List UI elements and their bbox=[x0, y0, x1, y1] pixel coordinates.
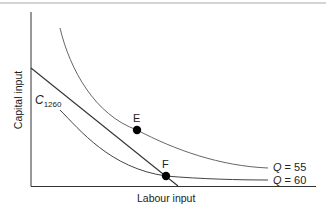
point-e-label: E bbox=[133, 112, 140, 124]
isocost-line bbox=[31, 68, 178, 186]
point-f-label: F bbox=[162, 158, 169, 170]
y-axis-label: Capital input bbox=[12, 71, 24, 129]
q60-label: Q = 60 bbox=[273, 174, 306, 186]
point-f bbox=[162, 172, 170, 180]
isocost-label: C1260 bbox=[35, 93, 62, 109]
point-e bbox=[133, 126, 141, 134]
isoquant-chart: E F C1260 Q = 55 Q = 60 Labour input Cap… bbox=[0, 0, 329, 215]
isoquant-q55 bbox=[60, 28, 268, 168]
q55-label: Q = 55 bbox=[273, 161, 306, 173]
x-axis-label: Labour input bbox=[137, 192, 195, 204]
